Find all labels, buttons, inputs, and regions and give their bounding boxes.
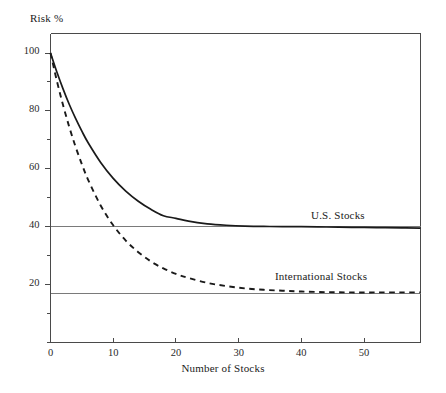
series-path-international-stocks	[51, 53, 421, 292]
x-tick-label-20: 20	[161, 347, 191, 358]
series-lines	[51, 53, 421, 292]
tick-marks	[45, 53, 365, 343]
y-tick-label-100: 100	[10, 45, 40, 56]
chart-plot-area	[0, 0, 446, 393]
series-label-international-stocks: International Stocks	[275, 270, 367, 282]
x-tick-label-30: 30	[224, 347, 254, 358]
series-path-u-s-stocks	[51, 53, 421, 228]
x-tick-label-40: 40	[286, 347, 316, 358]
reference-lines	[51, 227, 421, 294]
y-tick-label-20: 20	[10, 277, 40, 288]
risk-diversification-chart: Risk % Number of Stocks U.S. Stocks Inte…	[0, 0, 446, 393]
x-tick-label-0: 0	[36, 347, 66, 358]
x-tick-label-50: 50	[349, 347, 379, 358]
series-label-us-stocks: U.S. Stocks	[311, 209, 365, 221]
x-tick-label-10: 10	[98, 347, 128, 358]
y-axis-title: Risk %	[30, 12, 63, 24]
y-tick-label-40: 40	[10, 219, 40, 230]
y-tick-label-60: 60	[10, 161, 40, 172]
plot-frame	[51, 34, 421, 343]
y-tick-label-80: 80	[10, 103, 40, 114]
x-axis-title: Number of Stocks	[0, 362, 446, 374]
